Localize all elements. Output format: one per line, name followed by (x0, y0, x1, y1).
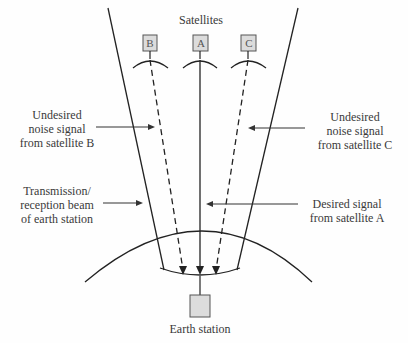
diagram-title: Satellites (175, 13, 227, 27)
desired-label: Desired signal from satellite A (302, 197, 392, 225)
satellite-b-label: B (143, 36, 157, 50)
noise-c-label: Undesired noise signal from satellite C (308, 110, 402, 152)
diagram-graphics (0, 0, 408, 343)
satellite-interference-diagram: Satellites B A C Undesired noise signal … (0, 0, 408, 343)
satellite-a-label: A (194, 36, 208, 50)
satellite-c-label: C (242, 36, 256, 50)
noise-b-label: Undesired noise signal from satellite B (12, 108, 102, 150)
satellite-c-antenna (231, 61, 266, 68)
earth-station-box (190, 295, 210, 317)
noise-signal-b (150, 60, 183, 270)
earth-station-label: Earth station (160, 322, 240, 336)
beam-label: Transmission/ reception beam of earth st… (12, 184, 102, 226)
